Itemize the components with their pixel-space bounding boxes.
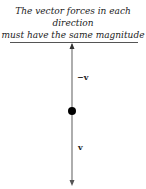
label-v: v xyxy=(77,142,83,152)
label-negative-v: −v xyxy=(77,72,89,82)
up-arrow-icon xyxy=(70,43,75,49)
down-arrow-icon xyxy=(70,180,75,186)
force-diagram: −v v xyxy=(0,0,146,189)
mass-dot xyxy=(68,107,76,115)
